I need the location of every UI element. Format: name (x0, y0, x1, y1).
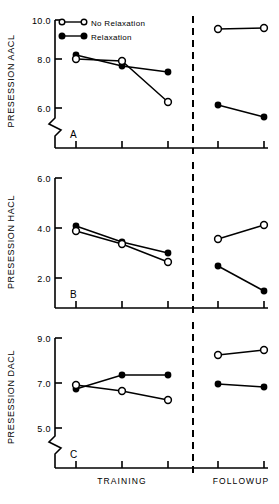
panel-b-relaxation-followup-line (218, 266, 264, 291)
data-point (261, 114, 268, 121)
panel-c: PRESESSION DACL 9.0 7.0 5.0 (0, 322, 279, 504)
legend: No Relaxation Relaxation (59, 19, 145, 42)
legend-marker-open-circle (59, 19, 65, 25)
legend-marker-filled-circle (59, 33, 65, 39)
panel-a-svg: 10.0 8.0 6.0 No Relaxation (22, 0, 279, 162)
panel-b-y-axis-label: PRESESSION HACL (0, 162, 22, 322)
data-point (165, 250, 172, 257)
panel-b-plot-area: 6.0 4.0 2.0 (22, 162, 279, 322)
panel-c-ytick-label-0: 9.0 (37, 334, 51, 344)
panel-a-y-axis-label: PRESESSION AACL (0, 0, 22, 162)
legend-label-relaxation: Relaxation (91, 33, 132, 42)
panel-b-ytick-label-2: 2.0 (37, 274, 51, 284)
legend-label-no-relaxation: No Relaxation (91, 19, 145, 28)
panel-b-ytick-label-0: 6.0 (37, 174, 51, 184)
panel-b-series-no-relaxation (73, 222, 268, 266)
data-point (261, 25, 268, 32)
panel-a-series-relaxation (73, 52, 268, 121)
panel-a-no-relaxation-followup-line (218, 28, 264, 29)
panel-a: PRESESSION AACL 10.0 8.0 6.0 (0, 0, 279, 162)
panel-c-no-relaxation-followup-line (218, 350, 264, 355)
panel-c-ytick-label-1: 7.0 (37, 379, 51, 389)
panel-b: PRESESSION HACL 6.0 4.0 2.0 (0, 162, 279, 322)
data-point (73, 382, 80, 389)
x-axis-group-label-followup: FOLLOWUP (213, 476, 270, 486)
panel-b-ytick-label-1: 4.0 (37, 224, 51, 234)
panel-a-ytick-label-2: 6.0 (37, 104, 51, 114)
data-point (215, 102, 222, 109)
panel-b-tag: B (70, 289, 77, 300)
panel-c-relaxation-followup-line (218, 384, 264, 387)
data-point (165, 69, 172, 76)
panel-a-relaxation-followup-line (218, 105, 264, 117)
panel-b-svg: 6.0 4.0 2.0 (22, 162, 279, 322)
data-point (119, 372, 126, 379)
data-point (165, 397, 172, 404)
data-point (119, 241, 126, 248)
data-point (261, 288, 268, 295)
panel-a-ytick-label-0: 10.0 (32, 16, 51, 26)
data-point (165, 99, 172, 106)
x-axis-group-label-training: TRAINING (97, 476, 146, 486)
panel-c-y-axis (49, 338, 61, 468)
panel-c-tag: C (70, 449, 78, 460)
data-point (119, 388, 126, 395)
data-point (165, 259, 172, 266)
panel-c-y-axis-label: PRESESSION DACL (0, 322, 22, 472)
data-point (261, 222, 268, 229)
data-point (73, 56, 80, 63)
data-point (165, 372, 172, 379)
panel-a-ytick-label-1: 8.0 (37, 55, 51, 65)
data-point (215, 263, 222, 270)
panel-a-plot-area: 10.0 8.0 6.0 No Relaxation (22, 0, 279, 162)
panel-c-svg: 9.0 7.0 5.0 (22, 322, 279, 504)
panel-c-plot-area: 9.0 7.0 5.0 (22, 322, 279, 504)
data-point (215, 381, 222, 388)
data-point (215, 236, 222, 243)
data-point (73, 228, 80, 235)
legend-marker-filled-circle-2 (81, 33, 87, 39)
multi-panel-line-chart: PRESESSION AACL 10.0 8.0 6.0 (0, 0, 279, 504)
data-point (119, 58, 126, 65)
panel-b-no-relaxation-followup-line (218, 225, 264, 239)
data-point (215, 26, 222, 33)
data-point (215, 352, 222, 359)
legend-marker-open-circle-2 (81, 19, 87, 25)
panel-c-ytick-label-2: 5.0 (37, 424, 51, 434)
data-point (261, 347, 268, 354)
panel-a-tag: A (70, 129, 77, 140)
data-point (261, 384, 268, 391)
panel-a-y-axis (49, 20, 61, 148)
panel-c-series-relaxation (73, 372, 268, 393)
